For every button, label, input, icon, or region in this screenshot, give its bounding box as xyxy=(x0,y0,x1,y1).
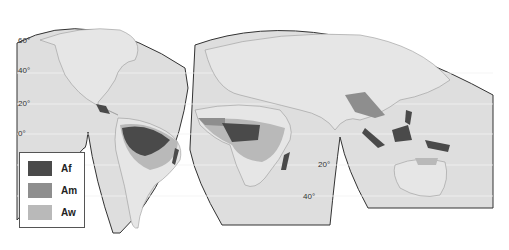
legend-label: Aw xyxy=(61,207,76,218)
latitude-label: 0° xyxy=(18,129,26,138)
am-swatch xyxy=(28,183,52,198)
latitude-label: 20° xyxy=(18,99,30,108)
latitude-label: 40° xyxy=(18,66,30,75)
aw-swatch xyxy=(28,205,52,220)
legend-item-aw: Aw xyxy=(28,205,76,220)
legend-label: Af xyxy=(61,163,72,174)
legend-label: Am xyxy=(61,185,77,196)
legend-item-am: Am xyxy=(28,183,77,198)
aw-zone-australia xyxy=(415,158,438,165)
map-legend: Af Am Aw xyxy=(19,152,85,228)
legend-item-af: Af xyxy=(28,161,72,176)
latitude-label: 60° xyxy=(18,36,30,45)
af-swatch xyxy=(28,161,52,176)
latitude-label: 40° xyxy=(303,192,315,201)
latitude-label: 20° xyxy=(318,160,330,169)
